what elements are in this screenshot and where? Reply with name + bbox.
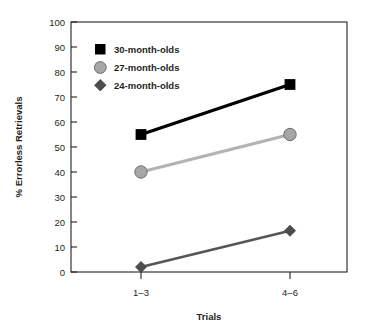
y-tick-label-10: 10 (54, 242, 65, 253)
x-axis-ticks (141, 272, 290, 279)
plot-frame (71, 22, 347, 272)
x-tick-label-2: 4–6 (282, 287, 298, 298)
series-24-month-line (141, 231, 290, 267)
legend-circle-icon (94, 62, 106, 74)
y-tick-label-50: 50 (54, 142, 65, 153)
legend-label-24-month-olds: 24-month-olds (114, 80, 179, 91)
series-30-month-line (141, 85, 290, 135)
y-axis-tick-labels: 100 90 80 70 60 50 40 30 20 10 0 (49, 17, 65, 278)
chart-legend: 30-month-olds 27-month-olds 24-month-old… (94, 44, 179, 91)
series-27-month-line (141, 135, 290, 173)
y-tick-label-70: 70 (54, 92, 65, 103)
y-tick-label-0: 0 (60, 267, 65, 278)
y-tick-label-100: 100 (49, 17, 65, 28)
circle-marker-point-1 (135, 166, 147, 178)
x-tick-label-1: 1–3 (133, 287, 149, 298)
legend-label-27-month-olds: 27-month-olds (114, 62, 179, 73)
legend-square-icon (95, 44, 106, 55)
y-tick-label-40: 40 (54, 167, 65, 178)
y-tick-label-90: 90 (54, 42, 65, 53)
diamond-marker-point-1 (136, 262, 147, 273)
y-tick-label-80: 80 (54, 67, 65, 78)
chart-figure: 100 90 80 70 60 50 40 30 20 10 0 % Error… (0, 0, 379, 332)
square-marker-point-1 (136, 129, 147, 140)
series-27-month-olds (135, 128, 296, 178)
series-24-month-olds (136, 225, 296, 272)
legend-diamond-icon (95, 80, 106, 91)
chart-canvas: 100 90 80 70 60 50 40 30 20 10 0 % Error… (0, 0, 379, 332)
y-tick-label-20: 20 (54, 217, 65, 228)
y-axis-title: % Errorless Retrievals (13, 97, 24, 198)
diamond-marker-point-2 (285, 225, 296, 236)
legend-label-30-month-olds: 30-month-olds (114, 44, 179, 55)
y-tick-label-30: 30 (54, 192, 65, 203)
square-marker-point-2 (285, 79, 296, 90)
y-tick-label-60: 60 (54, 117, 65, 128)
x-axis-title: Trials (197, 311, 222, 322)
circle-marker-point-2 (284, 128, 296, 140)
y-axis-ticks (71, 22, 77, 272)
